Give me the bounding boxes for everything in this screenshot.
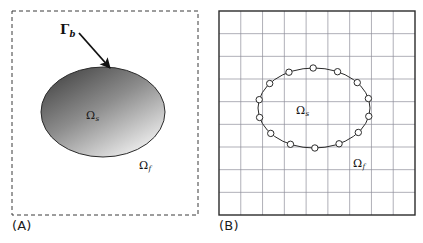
label-solid-domain-a: Ωs (86, 110, 99, 121)
panel-a-caption: (A) (12, 218, 32, 233)
panel-a-graphic (0, 0, 211, 243)
lagrangian-marker-node (287, 141, 293, 147)
panel-b-caption: (B) (219, 218, 239, 233)
panel-b-solid-frame (219, 11, 415, 215)
lagrangian-marker-node (355, 129, 361, 135)
lagrangian-marker-node (268, 130, 274, 136)
panel-b-graphic (211, 0, 423, 243)
panel-a: Γb Ωs Ωf (A) (0, 0, 211, 243)
lagrangian-marker-node (312, 145, 318, 151)
boundary-pointer-arrow (79, 33, 110, 68)
label-boundary-gamma-b: Γb (60, 23, 75, 36)
panel-b: Ωs Ωf (B) (211, 0, 423, 243)
label-solid-domain-b: Ωs (296, 105, 309, 116)
solid-body-filled (41, 67, 165, 157)
lagrangian-marker-node (256, 114, 262, 120)
lagrangian-marker-node (365, 95, 371, 101)
label-fluid-domain-a: Ωf (139, 160, 151, 171)
solid-body-outline (258, 68, 370, 148)
eulerian-grid (219, 11, 415, 215)
label-base: Ω (353, 157, 362, 170)
lagrangian-markers (256, 65, 372, 151)
label-base: Γ (60, 22, 69, 37)
lagrangian-marker-node (336, 141, 342, 147)
label-subscript: f (148, 164, 151, 173)
lagrangian-marker-node (366, 113, 372, 119)
label-base: Ω (296, 104, 305, 117)
label-fluid-domain-b: Ωf (353, 158, 365, 169)
label-subscript: s (305, 109, 309, 118)
lagrangian-marker-node (354, 79, 360, 85)
label-subscript: f (362, 162, 365, 171)
label-base: Ω (139, 159, 148, 172)
lagrangian-marker-node (310, 65, 316, 71)
label-subscript: b (70, 29, 76, 39)
label-base: Ω (86, 109, 95, 122)
figure-container: Γb Ωs Ωf (A) Ωs Ωf (B) (0, 0, 423, 243)
lagrangian-marker-node (334, 69, 340, 75)
lagrangian-marker-node (256, 96, 262, 102)
label-subscript: s (95, 114, 99, 123)
lagrangian-marker-node (286, 69, 292, 75)
lagrangian-marker-node (267, 80, 273, 86)
